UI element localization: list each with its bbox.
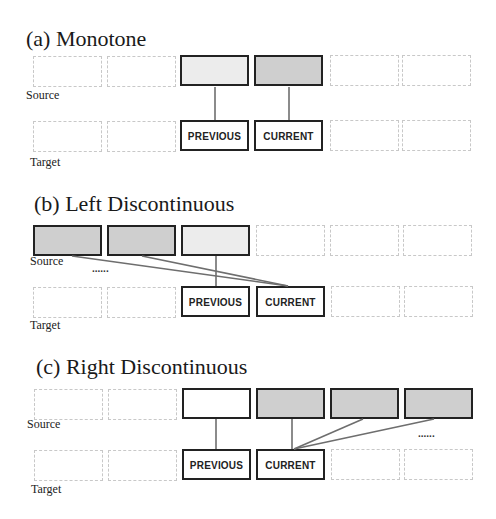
source-cell-current [254,55,323,86]
target-cell-current: CURRENT [256,449,325,480]
target-label: Target [30,155,60,170]
target-cell-previous: PREVIOUS [180,120,249,151]
target-cell-6 [402,120,471,151]
link-c-right-2 [294,419,434,449]
link-b-left-2 [142,256,288,286]
target-cell-current: CURRENT [254,120,323,151]
target-cell-previous: PREVIOUS [181,286,250,317]
target-cell-previous: PREVIOUS [182,449,251,480]
source-cell-2 [108,389,177,420]
target-cell-2 [107,121,176,152]
source-cell-6 [403,225,472,256]
target-cell-5 [331,449,400,480]
source-cell-current [256,388,325,419]
source-label: Source [26,88,59,103]
target-cell-5 [330,120,399,151]
ellipsis: ...... [418,428,435,439]
source-cell-1 [33,225,102,256]
current-label: CURRENT [258,459,323,470]
target-cell-6 [404,286,473,317]
target-cell-1 [33,121,102,152]
source-label: Source [30,254,63,269]
target-cell-5 [331,286,400,317]
source-cell-4 [256,225,325,256]
current-label: CURRENT [258,296,323,307]
target-cell-6 [404,449,473,480]
source-cell-5 [330,225,399,256]
source-cell-previous [181,225,250,256]
target-label: Target [31,482,61,497]
previous-label: PREVIOUS [182,130,247,141]
target-cell-2 [107,287,176,318]
target-cell-1 [34,450,103,481]
source-cell-5 [330,55,399,86]
target-label: Target [30,318,60,333]
source-cell-5 [330,388,399,419]
source-cell-6 [404,388,473,419]
panel-c-title: (c) Right Discontinuous [36,355,247,379]
source-cell-2 [107,225,176,256]
ellipsis: ...... [92,263,109,274]
source-cell-previous [182,388,251,419]
current-label: CURRENT [256,130,321,141]
source-cell-1 [34,389,103,420]
source-cell-1 [33,56,102,87]
target-cell-1 [33,287,102,318]
previous-label: PREVIOUS [184,459,249,470]
source-cell-previous [180,55,249,86]
source-cell-6 [402,55,471,86]
panel-b-title: (b) Left Discontinuous [34,192,234,216]
previous-label: PREVIOUS [183,296,248,307]
target-cell-current: CURRENT [256,286,325,317]
panel-a-title: (a) Monotone [26,27,146,51]
source-label: Source [27,417,60,432]
target-cell-2 [108,450,177,481]
source-cell-2 [107,56,176,87]
link-c-right-1 [294,419,363,449]
